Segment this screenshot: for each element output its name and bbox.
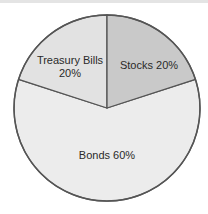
label-treasury-line1: Treasury Bills bbox=[37, 54, 104, 66]
pie-chart: Stocks 20% Treasury Bills 20% Bonds 60% bbox=[0, 0, 208, 214]
label-treasury-line2: 20% bbox=[59, 67, 81, 79]
label-bonds: Bonds 60% bbox=[79, 149, 135, 161]
label-stocks: Stocks 20% bbox=[120, 59, 178, 71]
